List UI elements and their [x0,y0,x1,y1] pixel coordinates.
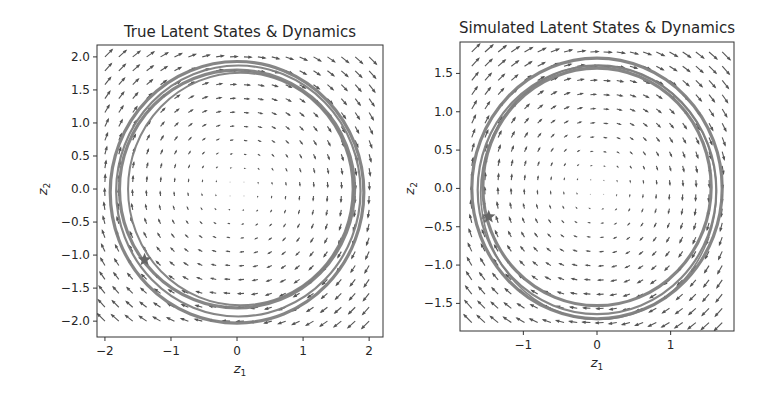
plot-title: Simulated Latent States & Dynamics [459,19,735,37]
x-axis-label: z1 [590,355,604,372]
x-tick-label: 0 [233,344,241,358]
y-axis-ticks: 2.01.51.00.50.0−0.5−1.0−1.5−2.0 [61,50,97,328]
y-tick-label: 1.5 [434,66,453,80]
trajectory-line [116,65,360,316]
y-tick-label: −2.0 [61,314,90,328]
plot-title: True Latent States & Dynamics [123,23,356,41]
trajectory-line [110,62,364,324]
x-tick-label: 2 [365,344,373,358]
y-tick-label: 0.0 [71,182,90,196]
y-tick-label: −1.5 [424,296,453,310]
plot-area [463,43,731,331]
y-tick-label: 0.0 [434,181,453,195]
y-axis-ticks: 1.51.00.50.0−0.5−1.0−1.5 [424,66,460,310]
y-tick-label: −1.5 [61,281,90,295]
figure: True Latent States & Dynamics −2−1012 2.… [0,0,773,398]
x-tick-label: 1 [299,344,307,358]
trajectories [110,62,364,324]
trajectories [472,58,722,319]
x-tick-label: −1 [162,344,180,358]
y-tick-label: 1.0 [434,105,453,119]
y-tick-label: 1.5 [71,83,90,97]
y-tick-label: 2.0 [71,50,90,64]
x-axis-ticks: −101 [514,331,674,352]
trajectory-line [483,68,711,306]
plot-simulated-latent-states: Simulated Latent States & Dynamics −101 … [402,19,735,372]
y-tick-label: 1.0 [71,116,90,130]
x-tick-label: −2 [96,344,114,358]
y-tick-label: −1.0 [424,258,453,272]
x-axis-ticks: −2−1012 [96,337,373,358]
plot-area [97,49,378,330]
x-tick-label: 0 [593,338,601,352]
quiver-field [97,49,378,330]
trajectory-line [128,73,353,306]
x-tick-label: −1 [514,338,532,352]
x-tick-label: 1 [667,338,675,352]
plot-true-latent-states: True Latent States & Dynamics −2−1012 2.… [35,23,383,378]
y-tick-label: −1.0 [61,248,90,262]
y-axis-label: z2 [402,182,419,196]
quiver-field [463,43,731,331]
x-axis-label: z1 [233,361,247,378]
y-tick-label: −0.5 [424,220,453,234]
y-tick-label: 0.5 [434,143,453,157]
y-tick-label: −0.5 [61,215,90,229]
axes-frame [460,42,734,331]
y-tick-label: 0.5 [71,149,90,163]
y-axis-label: z2 [35,183,52,197]
